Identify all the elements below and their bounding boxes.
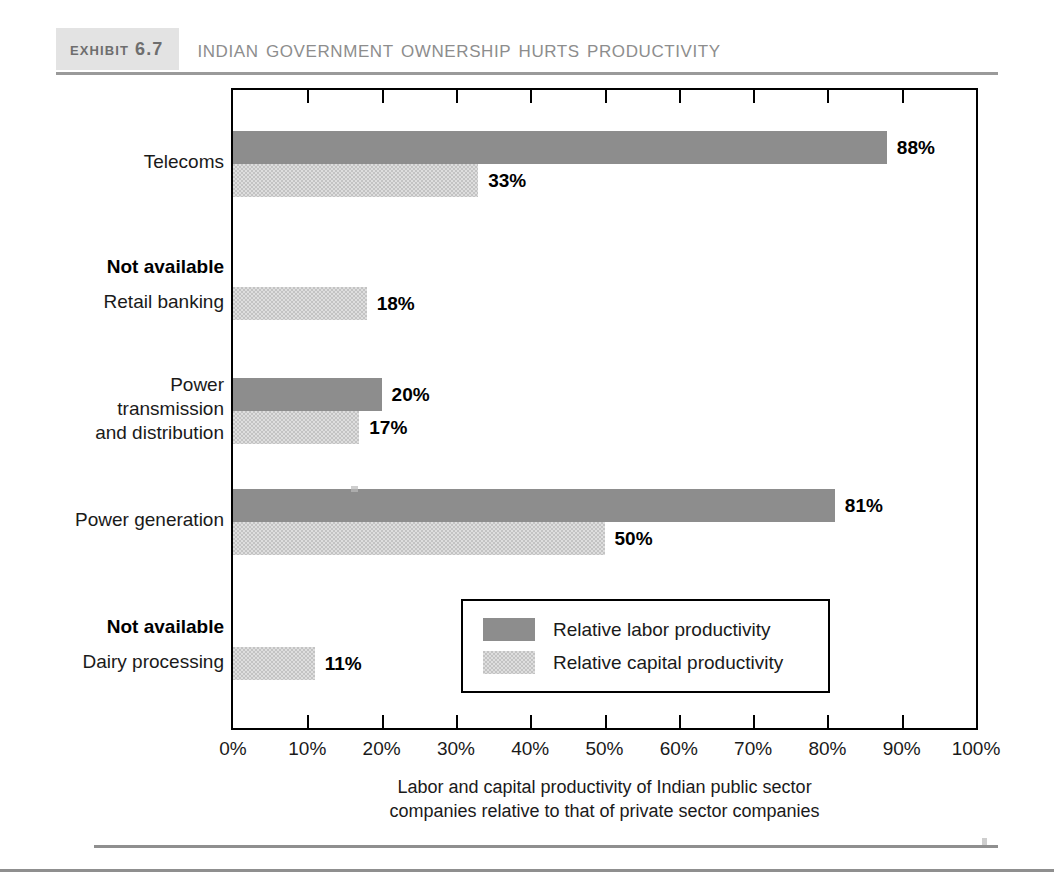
bar-retail-banking-capital xyxy=(233,287,367,320)
bar-telecoms-labor xyxy=(233,131,887,164)
x-axis-tick-mark xyxy=(902,90,904,103)
legend-swatch-capital xyxy=(483,651,535,674)
x-axis-tick-mark xyxy=(382,715,384,728)
bar-value-label: 11% xyxy=(325,647,362,680)
exhibit-number: Exhibit 6.7 xyxy=(56,28,179,70)
page-speck xyxy=(982,838,987,845)
not-available-annotation: Not available xyxy=(14,616,224,638)
x-axis-caption-line-1: Labor and capital productivity of Indian… xyxy=(231,775,978,799)
legend-swatch-labor xyxy=(483,618,535,641)
bar-value-label: 18% xyxy=(377,287,415,320)
bar-value-label: 20% xyxy=(392,378,430,411)
category-label-line: Retail banking xyxy=(14,290,224,314)
category-label-line: Power xyxy=(14,373,224,397)
bar-value-label: 50% xyxy=(615,522,653,555)
category-label-telecoms: Telecoms xyxy=(14,150,224,174)
x-axis-caption: Labor and capital productivity of Indian… xyxy=(231,775,978,823)
legend-label-labor: Relative labor productivity xyxy=(553,619,771,641)
bar-value-label: 88% xyxy=(897,131,935,164)
x-axis-tick-label: 60% xyxy=(660,738,698,760)
category-label-line: Power generation xyxy=(14,508,224,532)
bar-telecoms-capital xyxy=(233,164,478,197)
category-label-power-generation: Power generation xyxy=(14,508,224,532)
bar-value-label: 81% xyxy=(845,489,883,522)
legend-item-labor: Relative labor productivity xyxy=(483,618,828,641)
x-axis-tick-mark xyxy=(679,90,681,103)
x-axis-tick-mark xyxy=(902,715,904,728)
x-axis-tick-mark xyxy=(605,715,607,728)
x-axis-caption-line-2: companies relative to that of private se… xyxy=(231,799,978,823)
chart-legend: Relative labor productivity Relative cap… xyxy=(461,599,830,693)
x-axis-tick-mark xyxy=(753,715,755,728)
x-axis-tick-mark xyxy=(827,715,829,728)
category-label-dairy-processing: Dairy processing xyxy=(14,650,224,674)
x-axis-tick-mark xyxy=(307,90,309,103)
x-axis-tick-label: 10% xyxy=(288,738,326,760)
x-axis-tick-label: 100% xyxy=(952,738,1001,760)
bar-dairy-processing-capital xyxy=(233,647,315,680)
category-label-line: transmission xyxy=(14,397,224,421)
category-label-retail-banking: Retail banking xyxy=(14,290,224,314)
footer-divider-top xyxy=(94,845,998,848)
footer-divider-bottom xyxy=(0,869,1054,872)
legend-item-capital: Relative capital productivity xyxy=(483,651,828,674)
x-axis-tick-label: 50% xyxy=(585,738,623,760)
category-label-line: Telecoms xyxy=(14,150,224,174)
x-axis-tick-mark xyxy=(307,715,309,728)
x-axis-tick-label: 30% xyxy=(437,738,475,760)
x-axis-tick-mark xyxy=(753,90,755,103)
bar-power-generation-labor xyxy=(233,489,835,522)
bar-value-label: 17% xyxy=(369,411,407,444)
page-speck xyxy=(351,486,358,492)
header-divider xyxy=(56,72,998,75)
bar-power-generation-capital xyxy=(233,522,605,555)
x-axis-tick-label: 80% xyxy=(808,738,846,760)
x-axis-tick-label: 90% xyxy=(883,738,921,760)
x-axis-tick-mark xyxy=(456,90,458,103)
bar-power-transmission-and-distribution-capital xyxy=(233,411,359,444)
category-label-line: Dairy processing xyxy=(14,650,224,674)
exhibit-title: Indian Government Ownership Hurts Produc… xyxy=(179,28,720,70)
x-axis-tick-label: 0% xyxy=(219,738,246,760)
x-axis-tick-mark xyxy=(605,90,607,103)
bar-power-transmission-and-distribution-labor xyxy=(233,378,382,411)
exhibit-header: Exhibit 6.7 Indian Government Ownership … xyxy=(56,28,998,70)
bar-value-label: 33% xyxy=(488,164,526,197)
not-available-annotation: Not available xyxy=(14,256,224,278)
x-axis-tick-label: 40% xyxy=(511,738,549,760)
x-axis-tick-mark xyxy=(530,90,532,103)
x-axis-tick-label: 20% xyxy=(363,738,401,760)
x-axis-tick-mark xyxy=(679,715,681,728)
x-axis-tick-mark xyxy=(530,715,532,728)
x-axis-tick-mark xyxy=(827,90,829,103)
legend-label-capital: Relative capital productivity xyxy=(553,652,783,674)
category-label-power-transmission-and-distribution: Powertransmissionand distribution xyxy=(14,373,224,445)
category-label-line: and distribution xyxy=(14,421,224,445)
x-axis-tick-label: 70% xyxy=(734,738,772,760)
x-axis-tick-mark xyxy=(382,90,384,103)
x-axis-tick-mark xyxy=(456,715,458,728)
